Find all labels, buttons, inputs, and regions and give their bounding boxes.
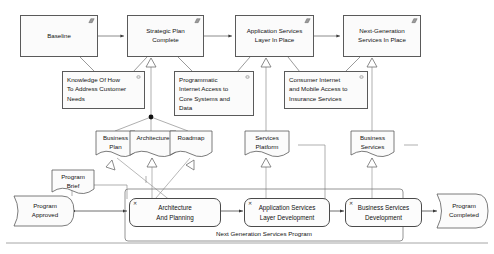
- work-package-marker: ✕: [349, 201, 353, 206]
- deliverable-label: BusinessPlan: [103, 134, 128, 151]
- gap-label: Knowledge Of HowTo Address CustomerNeeds: [67, 76, 126, 102]
- deliverable-label: Roadmap: [178, 134, 205, 143]
- group-label-text: Next Generation Services Program: [216, 230, 312, 237]
- plateau-icon: [304, 18, 311, 24]
- deliverable-label: ProgramBrief: [61, 173, 85, 190]
- gap-knowledge-of-how-to-address-customer-needs[interactable]: Knowledge Of HowTo Address CustomerNeeds: [62, 71, 145, 109]
- plateau-label: Next-GenerationServices In Place: [358, 27, 406, 45]
- plateau-label: Strategic PlanComplete: [146, 27, 185, 45]
- event-program-completed[interactable]: ProgramCompleted: [440, 196, 488, 226]
- gap-icon: [245, 75, 250, 79]
- group-label-next-generation-services-program: Next Generation Services Program: [216, 230, 312, 237]
- gap-label: Consumer Internetand Mobile Access toIns…: [289, 76, 347, 102]
- work-package-business-services-development[interactable]: ✕ Business ServicesDevelopment: [345, 198, 422, 227]
- event-label: ProgramCompleted: [449, 202, 479, 219]
- gap-icon: [136, 75, 141, 79]
- and-junction: [149, 115, 154, 120]
- realization-arrow-nextgen: [367, 58, 377, 67]
- plateau-strategic-plan-complete[interactable]: Strategic PlanComplete: [127, 15, 204, 57]
- work-package-label: ArchitectureAnd Planning: [156, 203, 193, 221]
- gap-label: ProgrammaticInternet Access toCore Syste…: [179, 76, 230, 111]
- plateau-baseline[interactable]: Baseline: [20, 15, 98, 57]
- deliverable-program-brief[interactable]: ProgramBrief: [52, 170, 94, 199]
- plateau-label: Baseline: [47, 32, 71, 41]
- plateau-icon: [411, 18, 418, 24]
- work-package-label: Business ServicesDevelopment: [358, 203, 409, 221]
- gap-consumer-internet-and-mobile-access[interactable]: Consumer Internetand Mobile Access toIns…: [284, 71, 368, 109]
- deliverable-services-platform[interactable]: ServicesPlatform: [245, 131, 289, 162]
- deliverable-label: BusinessServices: [360, 134, 385, 151]
- implementation-migration-diagram: Baseline Strategic PlanComplete Applicat…: [0, 0, 494, 254]
- work-package-label: Application ServicesLayer Development: [259, 203, 316, 221]
- realization-arrow-strategic: [146, 58, 156, 67]
- event-program-approved[interactable]: ProgramApproved: [16, 196, 74, 226]
- plateau-icon: [88, 18, 95, 24]
- work-package-marker: ✕: [133, 201, 137, 206]
- work-package-marker: ✕: [248, 201, 252, 206]
- gap-icon: [359, 75, 364, 79]
- plateau-icon: [194, 18, 201, 24]
- plateau-label: Application ServicesLayer In Place: [247, 27, 303, 45]
- plateau-application-services-layer-in-place[interactable]: Application ServicesLayer In Place: [235, 15, 314, 57]
- work-package-architecture-and-planning[interactable]: ✕ ArchitectureAnd Planning: [129, 198, 221, 227]
- deliverable-business-services[interactable]: BusinessServices: [351, 131, 394, 162]
- event-label: ProgramApproved: [32, 202, 59, 219]
- deliverable-label: ServicesPlatform: [255, 134, 279, 151]
- deliverable-label: Architecture: [136, 134, 169, 143]
- work-package-application-services-layer-development[interactable]: ✕ Application ServicesLayer Development: [244, 198, 330, 227]
- deliverable-roadmap[interactable]: Roadmap: [170, 131, 212, 162]
- gap-programmatic-internet-access[interactable]: ProgrammaticInternet Access toCore Syste…: [174, 71, 254, 116]
- realization-arrow-application: [261, 58, 271, 67]
- plateau-next-generation-services-in-place[interactable]: Next-GenerationServices In Place: [343, 15, 421, 57]
